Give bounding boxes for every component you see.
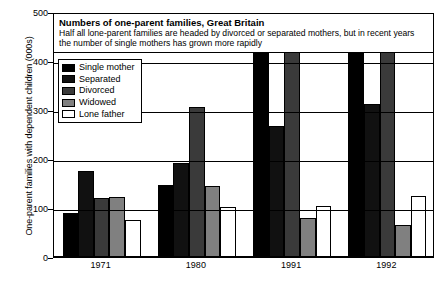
- chart-header: Numbers of one-parent families, Great Br…: [54, 14, 433, 53]
- bar[interactable]: [109, 197, 125, 257]
- plot-area: Numbers of one-parent families, Great Br…: [53, 13, 434, 258]
- y-axis-tick-labels: 0100200300400500: [18, 0, 48, 285]
- bar[interactable]: [63, 213, 79, 257]
- legend-item[interactable]: Lone father: [62, 108, 135, 120]
- bar[interactable]: [269, 126, 285, 257]
- legend-swatch-icon: [62, 99, 75, 107]
- legend-item[interactable]: Separated: [62, 74, 135, 86]
- y-tick-mark: [48, 111, 53, 112]
- legend-item[interactable]: Widowed: [62, 97, 135, 109]
- legend-label: Widowed: [79, 98, 116, 107]
- bar[interactable]: [220, 207, 236, 257]
- bar[interactable]: [189, 107, 205, 257]
- bar[interactable]: [158, 185, 174, 257]
- bar[interactable]: [205, 186, 221, 257]
- legend-swatch-icon: [62, 64, 75, 72]
- x-axis-tick-labels: 1971198019911992: [53, 260, 434, 280]
- x-axis-line: [54, 256, 433, 257]
- bar[interactable]: [380, 41, 396, 257]
- y-tick-label: 300: [33, 107, 48, 116]
- x-tick-label: 1992: [376, 260, 396, 270]
- legend-label: Separated: [79, 75, 121, 84]
- legend-label: Lone father: [79, 110, 125, 119]
- bar[interactable]: [94, 198, 110, 257]
- legend-label: Divorced: [79, 86, 115, 95]
- legend-item[interactable]: Single mother: [62, 62, 135, 74]
- bar[interactable]: [411, 196, 427, 257]
- bar[interactable]: [78, 171, 94, 257]
- y-tick-mark: [48, 160, 53, 161]
- y-tick-mark: [48, 13, 53, 14]
- chart-subtitle: Half all lone-parent families are headed…: [59, 29, 428, 48]
- legend-swatch-icon: [62, 75, 75, 83]
- gridline: [54, 161, 433, 162]
- bar[interactable]: [395, 225, 411, 257]
- chart-title: Numbers of one-parent families, Great Br…: [59, 17, 428, 28]
- x-tick-label: 1980: [186, 260, 206, 270]
- legend-swatch-icon: [62, 87, 75, 95]
- y-tick-mark: [48, 258, 53, 259]
- legend-swatch-icon: [62, 110, 75, 118]
- y-tick-label: 200: [33, 156, 48, 165]
- legend: Single motherSeparatedDivorcedWidowedLon…: [58, 59, 142, 123]
- bar[interactable]: [125, 220, 141, 257]
- legend-label: Single mother: [79, 63, 135, 72]
- bar[interactable]: [316, 206, 332, 257]
- legend-item[interactable]: Divorced: [62, 85, 135, 97]
- y-tick-label: 100: [33, 205, 48, 214]
- y-tick-mark: [48, 62, 53, 63]
- bar-chart: One-parent families with dependent child…: [0, 0, 438, 285]
- x-tick-label: 1991: [281, 260, 301, 270]
- x-tick-label: 1971: [91, 260, 111, 270]
- bar[interactable]: [364, 104, 380, 257]
- y-tick-label: 400: [33, 58, 48, 67]
- gridline: [54, 210, 433, 211]
- y-tick-mark: [48, 209, 53, 210]
- bar[interactable]: [253, 36, 269, 257]
- y-tick-label: 500: [33, 9, 48, 18]
- bar[interactable]: [300, 218, 316, 257]
- bar[interactable]: [284, 42, 300, 257]
